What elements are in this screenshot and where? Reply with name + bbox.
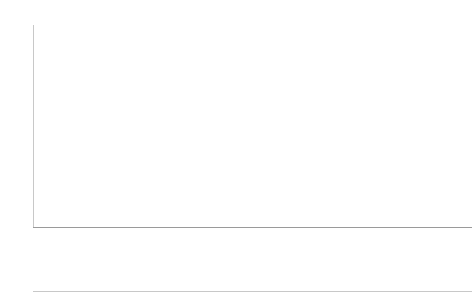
- x-axis-band-divider: [33, 291, 472, 292]
- x-axis-label-band: [33, 229, 472, 299]
- stacked-bar-chart: [0, 0, 475, 299]
- bar-groups: [33, 25, 472, 228]
